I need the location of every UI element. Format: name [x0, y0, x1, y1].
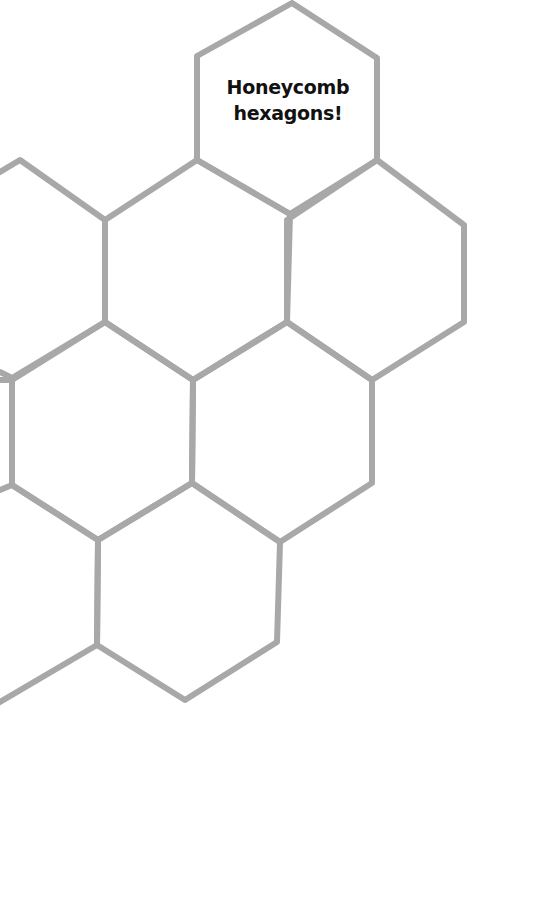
- hexagon-bottom: [97, 483, 280, 700]
- title-line-1: Honeycomb: [200, 74, 376, 100]
- honeycomb-grid: [0, 0, 556, 900]
- hexagon-middle-right: [287, 160, 464, 380]
- title-text: Honeycomb hexagons!: [200, 74, 376, 126]
- hexagon-left-partial-row3: [0, 380, 12, 490]
- hexagon-left-partial-top: [0, 160, 105, 378]
- hexagon-middle-left: [105, 160, 290, 380]
- hexagon-row3-left: [12, 322, 193, 540]
- hexagon-left-partial-bottom: [0, 485, 98, 702]
- hexagon-row3-right: [192, 322, 372, 542]
- title-line-2: hexagons!: [200, 100, 376, 126]
